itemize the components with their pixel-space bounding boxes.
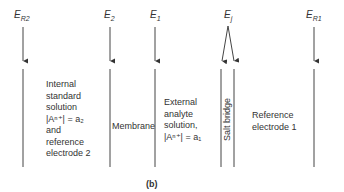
- membrane-label: Membrane: [112, 121, 155, 133]
- reference-electrode-1-text: Reference electrode 1: [252, 110, 297, 133]
- label-er1: ER1: [306, 9, 322, 22]
- label-e2: E2: [104, 9, 115, 22]
- label-er2: ER2: [14, 9, 30, 22]
- label-e1: E1: [150, 9, 161, 22]
- arrow-ej-right: [228, 26, 234, 61]
- label-ej: Ej: [224, 9, 232, 22]
- salt-bridge-label: Salt bridge: [222, 98, 232, 141]
- figure-caption: (b): [146, 179, 158, 189]
- external-solution-text: External analyte solution, |Aⁿ⁺| = a₁: [164, 97, 220, 143]
- arrow-ej-left: [222, 26, 228, 61]
- internal-solution-text: Internal standard solution |Aⁿ⁺| = a₂ an…: [46, 79, 108, 160]
